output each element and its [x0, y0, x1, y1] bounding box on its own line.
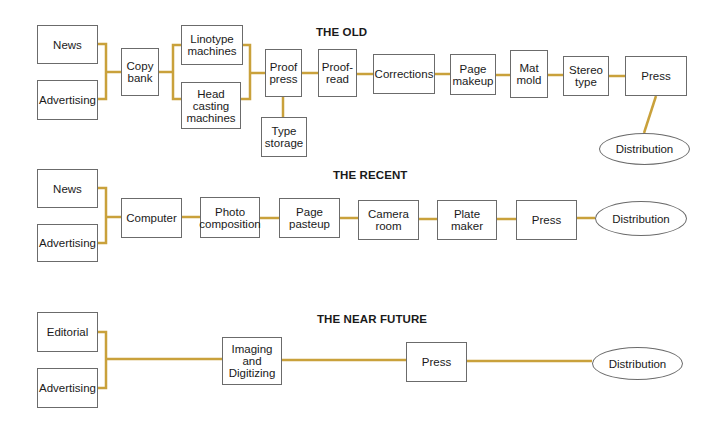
node-imaging-and-digitizing: Imaging and Digitizing — [222, 337, 282, 385]
node-advertising: Advertising — [37, 80, 98, 120]
section-title-near-future: THE NEAR FUTURE — [317, 313, 427, 325]
node-mat-mold: Mat mold — [510, 50, 548, 98]
node-news: News — [37, 169, 98, 208]
section-title-recent: THE RECENT — [333, 169, 407, 181]
node-press: Press — [406, 342, 467, 382]
node-proof-press: Proof press — [265, 49, 302, 97]
node-computer: Computer — [121, 198, 182, 238]
node-press: Press — [625, 56, 687, 96]
section-title-old: THE OLD — [316, 26, 367, 38]
node-distribution: Distribution — [592, 347, 683, 380]
node-page-pasteup: Page pasteup — [279, 198, 340, 238]
node-stereo-type: Stereo type — [563, 56, 609, 96]
node-press: Press — [516, 200, 577, 240]
node-camera-room: Camera room — [358, 200, 419, 240]
node-distribution: Distribution — [595, 201, 687, 236]
node-linotype-machines: Linotype machines — [181, 25, 243, 65]
node-advertising: Advertising — [37, 224, 98, 262]
node-type-storage: Type storage — [261, 117, 307, 157]
node-copy-bank: Copy bank — [121, 48, 159, 96]
node-head-casting-machines: Head casting machines — [181, 82, 241, 129]
node-page-makeup: Page makeup — [450, 54, 496, 95]
newspaper-production-diagram: THE OLD News Advertising Copy bank Linot… — [0, 0, 723, 427]
node-distribution: Distribution — [599, 133, 690, 165]
node-photo-composition: Photo composition — [200, 197, 260, 238]
node-news: News — [37, 25, 98, 64]
node-editorial: Editorial — [37, 312, 98, 352]
node-plate-maker: Plate maker — [437, 200, 497, 240]
node-proof-read: Proof- read — [318, 49, 357, 97]
node-advertising: Advertising — [37, 368, 98, 408]
node-corrections: Corrections — [373, 54, 435, 94]
